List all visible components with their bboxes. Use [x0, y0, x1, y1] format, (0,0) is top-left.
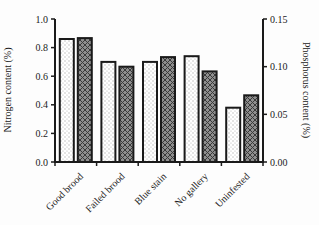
right-axis-tick-label: 0.10: [270, 61, 288, 72]
category-label-good-brood: Good brood: [43, 171, 85, 213]
left-axis-tick-label: 0.0: [36, 157, 49, 168]
bar-nitrogen-failed-brood: [101, 62, 115, 162]
right-axis-tick-label: 0.05: [270, 109, 288, 120]
bar-phosphorus-uninfested: [244, 95, 258, 162]
left-axis-tick-label: 0.2: [36, 128, 49, 139]
category-label-failed-brood: Failed brood: [83, 171, 127, 215]
right-axis-tick-label: 0.15: [270, 14, 288, 25]
right-axis-tick-label: 0.00: [270, 157, 288, 168]
bar-nitrogen-uninfested: [226, 108, 240, 162]
bar-nitrogen-good-brood: [60, 39, 74, 162]
chart-canvas: Good broodFailed broodBlue stainNo galle…: [0, 0, 319, 225]
bar-chart-figure: Good broodFailed broodBlue stainNo galle…: [0, 0, 319, 225]
left-axis-tick-label: 1.0: [36, 14, 49, 25]
left-axis-title: Nitrogen content (%): [2, 48, 14, 133]
left-axis-tick-label: 0.6: [36, 71, 49, 82]
category-label-blue-stain: Blue stain: [132, 171, 168, 207]
bar-phosphorus-blue-stain: [161, 57, 175, 162]
bar-nitrogen-blue-stain: [143, 62, 157, 162]
bar-phosphorus-failed-brood: [119, 67, 133, 162]
bar-phosphorus-no-gallery: [203, 71, 217, 162]
category-label-no-gallery: No gallery: [172, 171, 210, 209]
bar-phosphorus-good-brood: [78, 38, 92, 162]
chart-plot-area: Good broodFailed broodBlue stainNo galle…: [36, 14, 288, 215]
left-axis-tick-label: 0.8: [36, 42, 49, 53]
right-axis-title: Phosphorus content (%): [300, 42, 312, 138]
category-label-uninfested: Uninfested: [213, 171, 252, 210]
bar-nitrogen-no-gallery: [185, 56, 199, 162]
left-axis-tick-label: 0.4: [36, 99, 49, 110]
